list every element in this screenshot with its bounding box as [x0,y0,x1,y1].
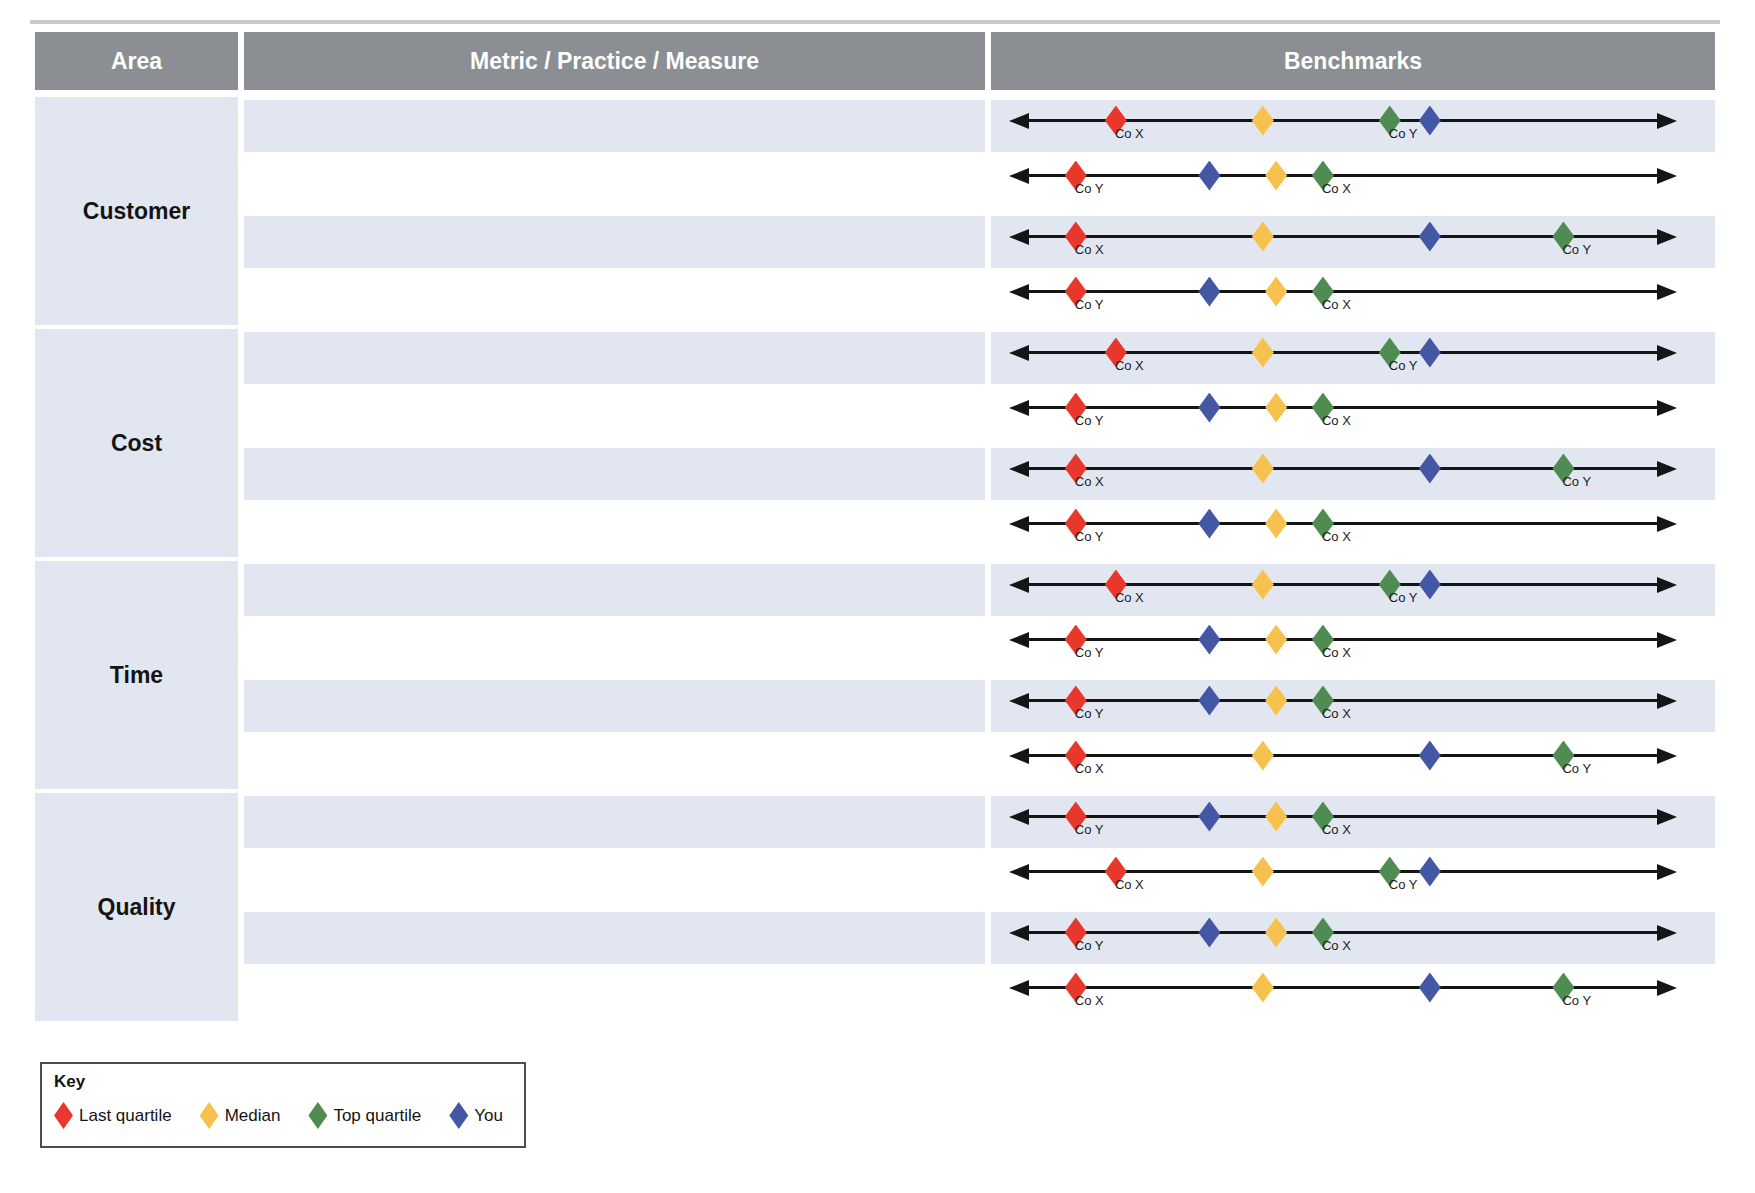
arrow-left-icon [1009,809,1029,825]
key-item-label: Top quartile [333,1106,421,1126]
benchmark-scale: Co YCo X [1009,155,1677,213]
you-diamond-icon [1419,570,1441,600]
header-metric-label: Metric / Practice / Measure [470,48,759,75]
metric-cell [244,503,985,561]
header-area-label: Area [111,48,162,75]
benchmark-row: Co XCo Y [991,213,1715,271]
metric-cell [244,561,985,619]
arrow-left-icon [1009,864,1029,880]
benchmarking-page: Area Metric / Practice / Measure Benchma… [0,0,1755,1193]
arrow-right-icon [1657,748,1677,764]
arrow-right-icon [1657,168,1677,184]
key-item-label: You [474,1106,503,1126]
benchmark-scale: Co YCo X [1009,680,1677,738]
you-diamond-icon [1198,393,1220,423]
benchmark-row: Co XCo Y [991,967,1715,1025]
key-item-label: Last quartile [79,1106,172,1126]
benchmark-scale: Co XCo Y [1009,564,1677,622]
arrow-right-icon [1657,284,1677,300]
metric-cell [244,213,985,271]
arrow-left-icon [1009,168,1029,184]
company-label: Co Y [1562,761,1591,776]
company-label: Co Y [1075,181,1104,196]
benchmark-row: Co XCo Y [991,97,1715,155]
median-diamond-icon [1265,918,1287,948]
arrow-left-icon [1009,400,1029,416]
company-label: Co X [1322,822,1351,837]
benchmark-scale: Co YCo X [1009,503,1677,561]
company-label: Co Y [1075,822,1104,837]
arrow-left-icon [1009,229,1029,245]
metric-cell [244,329,985,387]
benchmark-row: Co YCo X [991,909,1715,967]
metric-column [244,97,985,1025]
benchmark-scale: Co XCo Y [1009,967,1677,1025]
key-items: Last quartileMedianTop quartileYou [54,1102,512,1129]
company-label: Co X [1075,993,1104,1008]
page-top-rule [30,20,1720,24]
company-label: Co X [1075,761,1104,776]
median-diamond-icon [1265,161,1287,191]
you-diamond-icon [1198,161,1220,191]
area-label: Cost [111,430,162,457]
company-label: Co X [1322,706,1351,721]
median-diamond-icon [1252,338,1274,368]
arrow-right-icon [1657,577,1677,593]
arrow-left-icon [1009,345,1029,361]
median-diamond-icon [1265,277,1287,307]
company-label: Co X [1322,529,1351,544]
area-cell-cost: Cost [35,329,238,557]
benchmark-scale: Co XCo Y [1009,448,1677,506]
metric-cell [244,97,985,155]
arrow-left-icon [1009,461,1029,477]
you-diamond-icon [1419,741,1441,771]
last_quartile-diamond-icon [54,1102,73,1129]
benchmark-row: Co XCo Y [991,851,1715,909]
company-label: Co X [1115,877,1144,892]
you-diamond-icon [1198,686,1220,716]
key-item-median: Median [200,1102,281,1129]
arrow-left-icon [1009,632,1029,648]
benchmark-row: Co YCo X [991,155,1715,213]
company-label: Co Y [1389,590,1418,605]
median-diamond-icon [1252,454,1274,484]
key-box: Key Last quartileMedianTop quartileYou [40,1062,526,1148]
arrow-right-icon [1657,809,1677,825]
benchmark-scale: Co YCo X [1009,912,1677,970]
benchmark-row: Co XCo Y [991,561,1715,619]
benchmark-scale: Co XCo Y [1009,735,1677,793]
you-diamond-icon [1419,106,1441,136]
company-label: Co X [1322,413,1351,428]
company-label: Co Y [1389,126,1418,141]
benchmark-line [1023,290,1663,293]
key-item-top_quartile: Top quartile [308,1102,421,1129]
benchmark-row: Co XCo Y [991,329,1715,387]
median-diamond-icon [1265,802,1287,832]
key-title: Key [54,1072,512,1092]
metric-cell [244,271,985,329]
benchmark-scale: Co YCo X [1009,619,1677,677]
arrow-right-icon [1657,632,1677,648]
you-diamond-icon [1198,918,1220,948]
arrow-left-icon [1009,284,1029,300]
header-benchmarks: Benchmarks [991,32,1715,90]
area-cell-customer: Customer [35,97,238,325]
benchmark-line [1023,815,1663,818]
you-diamond-icon [1419,857,1441,887]
metric-cell [244,851,985,909]
arrow-right-icon [1657,113,1677,129]
arrow-right-icon [1657,229,1677,245]
arrow-right-icon [1657,516,1677,532]
metric-cell [244,793,985,851]
benchmark-scale: Co XCo Y [1009,216,1677,274]
company-label: Co Y [1075,706,1104,721]
metric-cell [244,619,985,677]
median-diamond-icon [1252,857,1274,887]
company-label: Co Y [1562,474,1591,489]
you-diamond-icon [1419,338,1441,368]
benchmarks-column: Co XCo YCo YCo XCo XCo YCo YCo XCo XCo Y… [991,97,1715,1025]
company-label: Co X [1322,181,1351,196]
benchmark-line [1023,699,1663,702]
median-diamond-icon [1252,741,1274,771]
arrow-right-icon [1657,400,1677,416]
